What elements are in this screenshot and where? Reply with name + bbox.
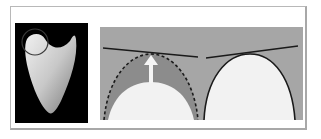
tooth-image — [15, 23, 88, 123]
tooth-photo — [15, 23, 88, 123]
tooth-shape — [25, 34, 76, 113]
cusp-diagram-svg — [100, 27, 303, 120]
up-arrow-shaft — [149, 63, 153, 83]
cusp-diagram — [100, 27, 303, 120]
